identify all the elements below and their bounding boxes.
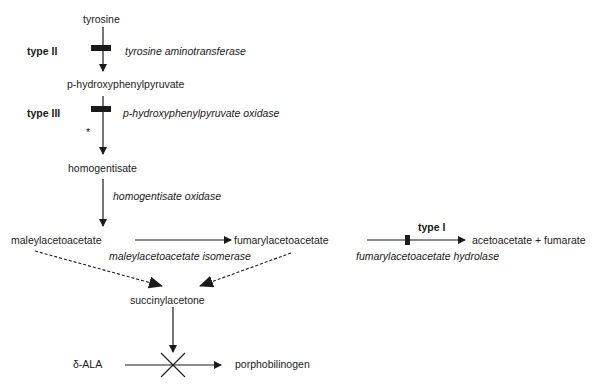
compound-fumarylacetoacetate: fumarylacetoacetate (234, 234, 329, 246)
compound-succinylacetone: succinylacetone (130, 294, 205, 306)
compound-maleylacetoacetate: maleylacetoacetate (11, 234, 101, 246)
enzyme-hpp-oxidase: p-hydroxyphenylpyruvate oxidase (123, 107, 279, 119)
type1-block-bar (405, 235, 410, 245)
enzyme-maleylacetoacetate-isomerase: maleylacetoacetate isomerase (109, 250, 251, 262)
type3-block-bar (91, 106, 111, 112)
enzyme-homogentisate-oxidase: homogentisate oxidase (113, 190, 221, 202)
pathway-arrows (0, 0, 603, 387)
enzyme-tyrosine-aminotransferase: tyrosine aminotransferase (125, 45, 246, 57)
compound-delta-ala: δ-ALA (73, 358, 102, 370)
compound-porphobilinogen: porphobilinogen (235, 358, 310, 370)
compound-products: acetoacetate + fumarate (472, 234, 586, 246)
compound-tyrosine: tyrosine (83, 13, 120, 25)
compound-homogentisate: homogentisate (68, 162, 137, 174)
compound-hpp: p-hydroxyphenylpyruvate (67, 78, 184, 90)
block-type-ii: type II (27, 45, 57, 57)
enzyme-fumarylacetoacetate-hydrolase: fumarylacetoacetate hydrolase (356, 250, 499, 262)
asterisk-annotation: * (86, 126, 90, 138)
block-type-iii: type III (27, 107, 60, 119)
block-type-i: type I (418, 221, 445, 233)
type2-block-bar (91, 45, 111, 51)
